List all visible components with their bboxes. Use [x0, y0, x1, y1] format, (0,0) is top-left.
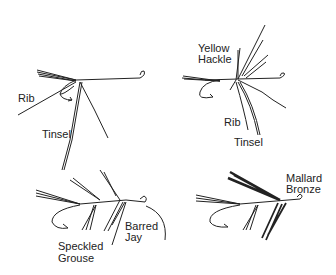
- label-hackle: Hackle: [198, 53, 232, 65]
- fly-step3-drawing: [36, 170, 165, 245]
- label-speckled: Speckled: [58, 240, 103, 252]
- label-bronze: Bronze: [286, 183, 321, 195]
- fly-tying-diagram: Rib Tinsel Yellow Hackle Rib Tinsel Barr…: [0, 0, 336, 275]
- label-rib-2: Rib: [224, 116, 241, 128]
- label-tinsel: Tinsel: [42, 128, 71, 140]
- label-grouse: Grouse: [58, 252, 94, 264]
- label-jay: Jay: [125, 231, 142, 243]
- fly-step1-drawing: [18, 70, 145, 170]
- label-rib: Rib: [18, 92, 35, 104]
- label-tinsel-2: Tinsel: [234, 136, 263, 148]
